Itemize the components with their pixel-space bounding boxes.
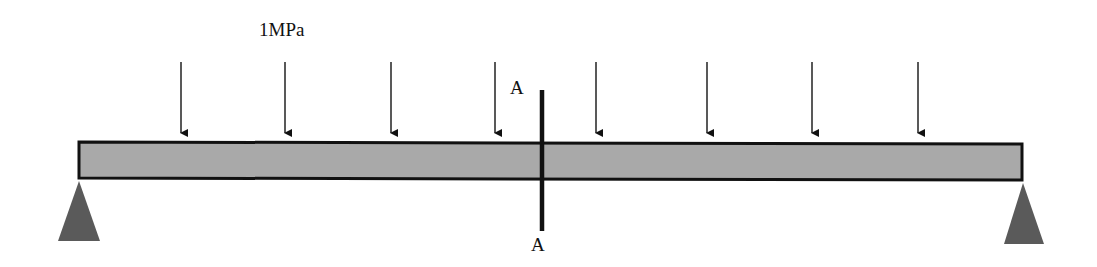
beam-diagram	[0, 0, 1097, 267]
section-label-bottom: A	[531, 235, 545, 254]
right-support	[1004, 183, 1044, 244]
load-label: 1MPa	[259, 20, 304, 39]
left-support	[58, 181, 100, 241]
distributed-load-arrows	[181, 62, 918, 133]
beam	[79, 142, 1022, 180]
section-label-top: A	[510, 78, 524, 97]
